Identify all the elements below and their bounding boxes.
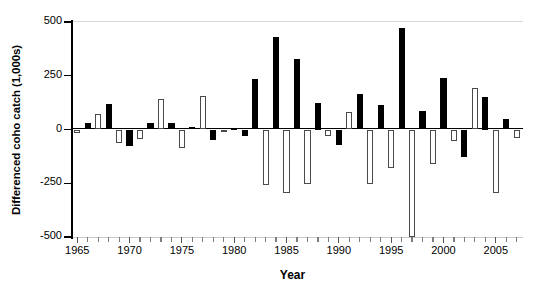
x-axis-tick-label: 1980 [211,244,257,256]
bar [95,114,101,129]
bar [357,94,363,129]
bar [430,130,436,164]
x-axis-major-tick [495,237,496,243]
x-axis-minor-tick [171,237,172,242]
bar [242,130,248,136]
bar [451,130,457,142]
x-axis-minor-tick [139,237,140,242]
x-axis-minor-tick [370,237,371,242]
x-axis-tick-label: 1975 [159,244,205,256]
bar [346,112,352,130]
x-axis-minor-tick [213,237,214,242]
y-axis-tick-label: -250 [26,175,62,187]
x-axis-tick-label: 2000 [420,244,466,256]
x-axis-minor-tick [328,237,329,242]
bar [221,130,227,132]
bar [263,130,269,185]
bar [419,111,425,130]
bar [147,123,153,129]
x-axis-minor-tick [464,237,465,242]
x-axis-minor-tick [485,237,486,242]
x-axis-minor-tick [380,237,381,242]
bar [126,130,132,147]
x-axis-minor-tick [474,237,475,242]
bar [514,130,520,139]
bar [116,130,122,143]
x-axis-minor-tick [349,237,350,242]
y-axis-tick [64,183,71,184]
x-axis-minor-tick [401,237,402,242]
bar [74,130,80,133]
chart-figure: Differenced coho catch (1,000s) Year 500… [0,0,547,292]
x-axis-major-tick [286,237,287,243]
y-axis-tick-label: 500 [26,14,62,26]
y-axis-tick-label: -500 [26,229,62,241]
x-axis-minor-tick [422,237,423,242]
x-axis-major-tick [443,237,444,243]
bar [378,105,384,130]
x-axis-tick-label: 2005 [473,244,519,256]
x-axis-minor-tick [265,237,266,242]
y-axis-tick [64,75,71,76]
x-axis-tick-label: 1970 [107,244,153,256]
x-axis-tick-label: 1995 [368,244,414,256]
bar [252,79,258,130]
bar [503,119,509,129]
bar [461,130,467,158]
bar [137,130,143,140]
x-axis-major-tick [338,237,339,243]
bar [409,130,415,238]
bar [168,123,174,129]
x-axis-minor-tick [87,237,88,242]
x-axis-minor-tick [255,237,256,242]
bar [179,130,185,149]
x-axis-minor-tick [296,237,297,242]
y-axis-tick-label: 250 [26,68,62,80]
bar [472,88,478,130]
x-axis-minor-tick [516,237,517,242]
bar [325,130,331,136]
bar [85,123,91,129]
bar [283,130,289,193]
bar [440,78,446,130]
x-axis-tick-label: 1985 [264,244,310,256]
y-axis-tick [64,129,71,130]
bar [158,99,164,129]
bar [336,130,342,145]
x-axis-major-tick [391,237,392,243]
x-axis-minor-tick [119,237,120,242]
x-axis-major-tick [77,237,78,243]
x-axis-minor-tick [98,237,99,242]
x-axis-minor-tick [202,237,203,242]
bar [231,128,237,130]
bar [106,104,112,129]
x-axis-major-tick [234,237,235,243]
x-axis-minor-tick [192,237,193,242]
x-axis-minor-tick [150,237,151,242]
x-axis-minor-tick [453,237,454,242]
x-axis-minor-tick [317,237,318,242]
x-axis-minor-tick [108,237,109,242]
bar [388,130,394,168]
y-axis-tick [64,236,71,237]
bar [210,130,216,140]
x-axis-minor-tick [160,237,161,242]
x-axis-minor-tick [359,237,360,242]
bar [294,59,300,130]
x-axis-title: Year [60,268,525,282]
bar [367,130,373,185]
x-axis-tick-label: 1965 [54,244,100,256]
bar [493,130,499,193]
x-axis-minor-tick [411,237,412,242]
bar [273,37,279,129]
bar [399,28,405,129]
bar [315,103,321,130]
y-axis-tick [64,21,71,22]
y-axis-tick-label: 0 [26,122,62,134]
bar [482,97,488,129]
x-axis-minor-tick [244,237,245,242]
x-axis-major-tick [129,237,130,243]
bar [189,127,195,130]
x-axis-major-tick [181,237,182,243]
x-axis-minor-tick [506,237,507,242]
